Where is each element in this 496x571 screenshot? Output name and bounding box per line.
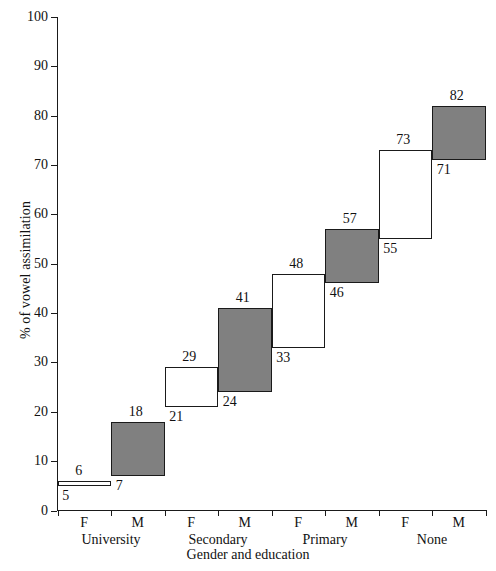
y-tick-40: [51, 313, 57, 314]
y-tick-80: [51, 116, 57, 117]
y-tick-label-60: 60: [6, 207, 48, 221]
value-label-low-primary-f: 33: [276, 351, 290, 365]
y-tick-label-30: 30: [6, 355, 48, 369]
value-label-high-secondary-f: 29: [182, 350, 196, 364]
x-tick-label-4-f: F: [272, 515, 326, 531]
bar-none-m: [432, 106, 486, 160]
vowel-assimilation-chart: % of vowel assimilation 0102030405060708…: [0, 0, 496, 571]
x-group-label-none: None: [379, 532, 486, 548]
x-tick-label-7-m: M: [432, 515, 486, 531]
y-tick-label-40: 40: [6, 306, 48, 320]
bar-university-m: [111, 422, 165, 476]
y-tick-label-20: 20: [6, 405, 48, 419]
x-group-label-secondary: Secondary: [165, 532, 272, 548]
value-label-high-secondary-m: 41: [236, 291, 250, 305]
value-label-low-university-m: 7: [116, 479, 123, 493]
y-tick-50: [51, 264, 57, 265]
x-tick-label-3-m: M: [218, 515, 272, 531]
x-group-label-university: University: [58, 532, 165, 548]
value-label-high-none-m: 82: [450, 89, 464, 103]
value-label-high-primary-f: 48: [289, 257, 303, 271]
y-tick-90: [51, 66, 57, 67]
value-label-low-none-m: 71: [437, 163, 451, 177]
y-tick-label-10: 10: [6, 454, 48, 468]
x-tick-label-2-f: F: [165, 515, 219, 531]
y-tick-label-50: 50: [6, 257, 48, 271]
y-tick-100: [51, 17, 57, 18]
y-tick-70: [51, 165, 57, 166]
y-tick-label-0: 0: [6, 504, 48, 518]
x-tick-label-6-f: F: [379, 515, 433, 531]
y-tick-20: [51, 412, 57, 413]
value-label-high-university-f: 6: [75, 464, 82, 478]
bar-secondary-f: [165, 367, 219, 406]
bar-university-f: [58, 481, 112, 486]
value-label-low-university-f: 5: [62, 489, 69, 503]
value-label-high-primary-m: 57: [343, 212, 357, 226]
x-group-label-primary: Primary: [272, 532, 379, 548]
bar-primary-m: [325, 229, 379, 283]
bar-primary-f: [272, 274, 326, 348]
y-tick-0: [51, 511, 57, 512]
bar-none-f: [379, 150, 433, 239]
x-tick-label-1-m: M: [111, 515, 165, 531]
y-tick-60: [51, 214, 57, 215]
value-label-high-none-f: 73: [396, 133, 410, 147]
y-tick-label-90: 90: [6, 59, 48, 73]
x-tick-label-0-f: F: [58, 515, 112, 531]
value-label-high-university-m: 18: [129, 405, 143, 419]
y-tick-label-80: 80: [6, 109, 48, 123]
value-label-low-primary-m: 46: [330, 286, 344, 300]
value-label-low-secondary-f: 21: [169, 410, 183, 424]
x-tick-label-5-m: M: [325, 515, 379, 531]
x-tick-8: [486, 510, 487, 516]
y-axis-line: [57, 17, 58, 511]
value-label-low-none-f: 55: [383, 242, 397, 256]
bar-secondary-m: [218, 308, 272, 392]
value-label-low-secondary-m: 24: [223, 395, 237, 409]
y-tick-label-70: 70: [6, 158, 48, 172]
y-tick-30: [51, 362, 57, 363]
x-axis-title: Gender and education: [0, 547, 496, 563]
y-tick-label-100: 100: [6, 10, 48, 24]
y-tick-10: [51, 461, 57, 462]
